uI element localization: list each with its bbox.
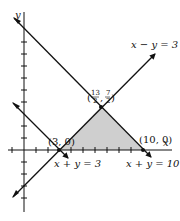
line-x-minus-y-eq-3	[13, 54, 155, 197]
inequality-graph: x y x − y = 3 x + y = 3 x + y	[0, 0, 180, 221]
svg-text:13: 13	[91, 89, 100, 97]
vertex-point	[57, 148, 61, 152]
svg-text:2: 2	[93, 97, 97, 105]
vertex-point	[99, 105, 103, 109]
label-x-plus-y-eq-3: x + y = 3	[54, 158, 101, 169]
svg-text:): )	[111, 92, 115, 103]
svg-text:7: 7	[106, 89, 110, 97]
label-x-plus-y-eq-10: x + y = 10	[126, 158, 180, 169]
vertex-label-10-0: (10, 0)	[139, 134, 172, 145]
svg-text:,: ,	[100, 92, 103, 103]
svg-text:2: 2	[106, 97, 110, 105]
label-x-minus-y-eq-3: x − y = 3	[131, 39, 178, 50]
vertex-label-3-0: (3, 0)	[48, 136, 75, 147]
vertex-point	[141, 148, 145, 152]
vertex-label-13-2-7-2: ( 13 2 , 7 2 )	[87, 89, 115, 105]
